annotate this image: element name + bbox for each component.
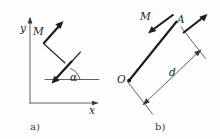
point-O-dot <box>127 79 131 83</box>
moment-label-b: M <box>139 10 151 22</box>
edge-O-lower <box>128 82 153 115</box>
point-A-label: A <box>176 13 185 25</box>
couple-connector-upper <box>44 44 66 64</box>
mechanics-figure-svg: y x M α a) <box>0 0 220 139</box>
point-O-label: O <box>117 73 126 85</box>
panel-b-group: M A O d b) <box>117 10 208 132</box>
panel-a-group: y x M α a) <box>19 17 99 133</box>
y-axis-label: y <box>19 22 27 34</box>
moment-label-a: M <box>32 25 44 37</box>
caption-a: a) <box>30 121 40 132</box>
distance-label-d: d <box>169 66 176 78</box>
caption-b: b) <box>155 121 165 132</box>
figure-container: y x M α a) <box>0 0 220 139</box>
y-axis <box>28 17 33 104</box>
moment-arrow-lower-a <box>52 61 73 84</box>
angle-label-alpha: α <box>70 71 77 83</box>
moment-arrow-lower-b <box>183 14 208 33</box>
moment-arrow-upper-a <box>44 21 64 44</box>
x-axis-label: x <box>89 104 95 116</box>
